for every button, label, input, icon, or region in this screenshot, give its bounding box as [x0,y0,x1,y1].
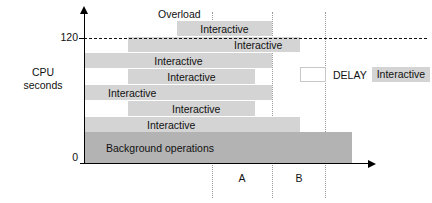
y-axis [84,12,85,164]
bar-interactive-row-7: Interactive [85,117,300,132]
y-tick-mark-0 [80,163,85,164]
bar-interactive-row-1: Interactive [177,21,272,36]
bar-interactive-row-6: Interactive [128,101,255,116]
category-label-a: A [232,172,252,184]
y-axis-title-line1: CPU [12,66,74,79]
bar-interactive-row-4: Interactive [128,69,255,84]
bar-background-operations: Background operations [85,132,352,163]
bar-label: Interactive [167,71,215,83]
cpu-seconds-overload-chart: Interactive Interactive Interactive Inte… [0,0,432,203]
bar-label: Interactive [200,23,248,35]
x-axis [84,163,370,164]
x-axis-arrow-icon [368,160,376,168]
y-tick-label-120: 120 [48,31,78,43]
legend-swatch-delay [300,67,326,82]
bar-label: Interactive [234,39,282,51]
y-tick-mark-120 [80,38,85,39]
bar-interactive-row-2: Interactive [128,37,300,52]
bar-interactive-row-5: Interactive [85,85,272,100]
category-label-b: B [289,172,309,184]
bar-label: Interactive [147,119,195,131]
legend-label-delay: DELAY [326,69,372,81]
legend-swatch-interactive: Interactive [372,67,430,82]
legend: DELAY Interactive [300,67,430,82]
y-axis-title-line2: seconds [12,79,74,92]
bar-label: Interactive [154,55,202,67]
overload-label: Overload [158,8,201,20]
bar-label: Interactive [172,103,220,115]
y-tick-label-0: 0 [48,151,78,163]
y-axis-title: CPU seconds [12,66,74,92]
bar-label: Interactive [108,87,156,99]
y-axis-arrow-icon [80,6,88,14]
bar-label: Background operations [106,142,214,154]
overload-threshold-line [79,38,427,39]
bar-interactive-row-3: Interactive [85,53,272,68]
